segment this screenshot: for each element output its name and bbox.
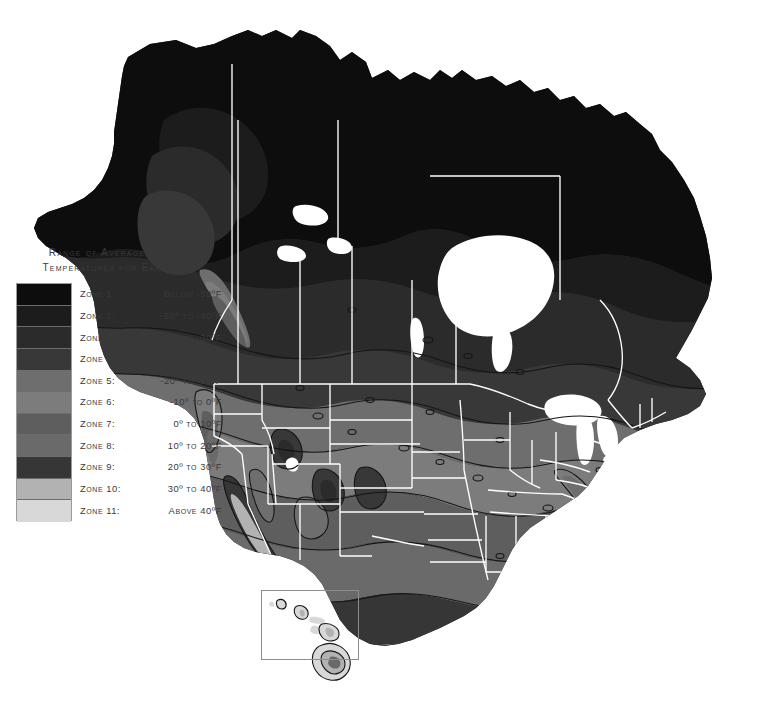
legend-body: Zone 1:Below -50ºFZone 2:-50º to -40ºFZo… bbox=[10, 283, 226, 521]
legend-zone-label: Zone 3: bbox=[80, 332, 134, 343]
legend-range-label: -40º to -30ºF bbox=[134, 332, 226, 343]
legend-swatch-zone-3 bbox=[17, 327, 71, 349]
legend-range-label: 0º to 10ºF bbox=[134, 418, 226, 429]
map-legend: Range of Average Minimum Temperatures fo… bbox=[10, 246, 226, 521]
legend-swatch-zone-9 bbox=[17, 457, 71, 479]
legend-swatch-zone-5 bbox=[17, 371, 71, 393]
legend-row-zone-10: Zone 10:30º to 40ºF bbox=[80, 478, 226, 500]
legend-swatch-zone-6 bbox=[17, 392, 71, 414]
legend-range-label: -10º to 0ºF bbox=[134, 396, 226, 407]
legend-row-zone-4: Zone 4:-30º to -20ºF bbox=[80, 348, 226, 370]
legend-zone-label: Zone 2: bbox=[80, 310, 134, 321]
legend-range-label: 10º to 20ºF bbox=[134, 440, 226, 451]
legend-row-zone-5: Zone 5:-20º to -10ºF bbox=[80, 370, 226, 392]
legend-row-zone-11: Zone 11:Above 40ºF bbox=[80, 499, 226, 521]
legend-zone-label: Zone 10: bbox=[80, 483, 134, 494]
legend-range-label: -50º to -40ºF bbox=[134, 310, 226, 321]
legend-zone-label: Zone 5: bbox=[80, 375, 134, 386]
legend-title: Range of Average Minimum Temperatures fo… bbox=[14, 246, 226, 275]
legend-swatch-zone-1 bbox=[17, 284, 71, 306]
legend-swatch-zone-8 bbox=[17, 435, 71, 457]
legend-range-label: -20º to -10ºF bbox=[134, 375, 226, 386]
legend-zone-label: Zone 8: bbox=[80, 440, 134, 451]
legend-row-zone-6: Zone 6:-10º to 0ºF bbox=[80, 391, 226, 413]
legend-swatch-column bbox=[16, 283, 72, 521]
legend-row-zone-1: Zone 1:Below -50ºF bbox=[80, 283, 226, 305]
legend-range-label: Above 40ºF bbox=[134, 505, 226, 516]
legend-range-label: -30º to -20ºF bbox=[134, 353, 226, 364]
legend-zone-label: Zone 1: bbox=[80, 288, 134, 299]
legend-row-zone-8: Zone 8:10º to 20ºF bbox=[80, 434, 226, 456]
legend-row-zone-3: Zone 3:-40º to -30ºF bbox=[80, 326, 226, 348]
legend-swatch-zone-11 bbox=[17, 500, 71, 522]
legend-zone-label: Zone 4: bbox=[80, 353, 134, 364]
legend-range-label: 30º to 40ºF bbox=[134, 483, 226, 494]
legend-zone-label: Zone 6: bbox=[80, 396, 134, 407]
legend-zone-label: Zone 7: bbox=[80, 418, 134, 429]
legend-swatch-zone-2 bbox=[17, 306, 71, 328]
legend-range-label: 20º to 30ºF bbox=[134, 461, 226, 472]
legend-row-list: Zone 1:Below -50ºFZone 2:-50º to -40ºFZo… bbox=[80, 283, 226, 521]
legend-range-label: Below -50ºF bbox=[134, 288, 226, 299]
legend-row-zone-7: Zone 7:0º to 10ºF bbox=[80, 413, 226, 435]
legend-swatch-zone-10 bbox=[17, 479, 71, 501]
legend-swatch-zone-4 bbox=[17, 349, 71, 371]
legend-swatch-zone-7 bbox=[17, 414, 71, 436]
legend-zone-label: Zone 9: bbox=[80, 461, 134, 472]
legend-row-zone-9: Zone 9:20º to 30ºF bbox=[80, 456, 226, 478]
legend-row-zone-2: Zone 2:-50º to -40ºF bbox=[80, 305, 226, 327]
legend-zone-label: Zone 11: bbox=[80, 505, 134, 516]
hawaii-inset-frame bbox=[261, 590, 359, 660]
